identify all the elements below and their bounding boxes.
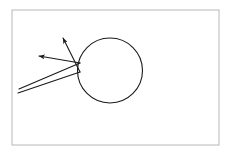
incident-ray-upper	[19, 63, 80, 89]
incident-ray-lower	[18, 72, 80, 93]
circular-mirror	[78, 38, 143, 103]
ray-reflection-diagram	[0, 0, 230, 155]
figure-border	[12, 10, 219, 145]
figure-root	[0, 0, 230, 155]
